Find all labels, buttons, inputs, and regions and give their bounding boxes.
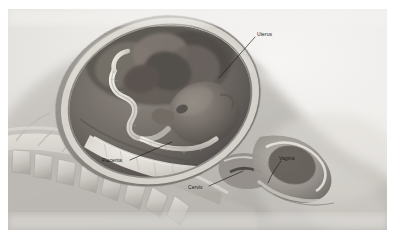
figure-root: Uterus Placenta Cervix Vagina bbox=[0, 0, 399, 240]
photo-vignette bbox=[8, 9, 387, 230]
anatomy-illustration-svg bbox=[8, 9, 387, 230]
anatomy-photograph bbox=[8, 9, 387, 230]
label-uterus[interactable]: Uterus bbox=[257, 31, 272, 37]
label-cervix[interactable]: Cervix bbox=[188, 184, 202, 190]
label-vagina[interactable]: Vagina bbox=[279, 155, 295, 161]
label-placenta[interactable]: Placenta bbox=[102, 157, 122, 163]
